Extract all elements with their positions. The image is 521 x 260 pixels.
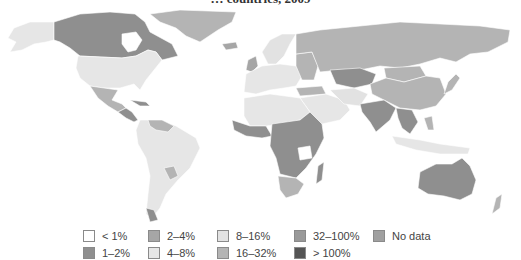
region-caribbean (130, 100, 150, 106)
legend-label: 1–2% (102, 247, 130, 259)
region-southern-africa (278, 176, 304, 198)
region-new-zealand (492, 194, 502, 214)
region-mexico (90, 86, 126, 112)
legend-swatch (294, 230, 306, 242)
legend-label: > 100% (313, 247, 351, 259)
legend-swatch (217, 247, 229, 259)
legend-item-lt-1: < 1% (83, 229, 127, 243)
region-greenland (150, 10, 236, 42)
legend-swatch (217, 230, 229, 242)
legend-label: 4–8% (167, 247, 195, 259)
legend-item-gt-100: > 100% (294, 246, 351, 260)
legend-item-no-data: No data (373, 229, 431, 243)
legend-label: No data (392, 230, 431, 242)
legend-swatch (83, 230, 95, 242)
legend-swatch (373, 230, 385, 242)
legend-item-4-8: 4–8% (148, 246, 195, 260)
legend-label: 2–4% (167, 230, 195, 242)
region-indonesia (392, 136, 470, 154)
legend-label: 8–16% (236, 230, 270, 242)
world-map (0, 8, 521, 223)
legend-swatch (294, 247, 306, 259)
legend-item-2-4: 2–4% (148, 229, 195, 243)
legend-item-32-100: 32–100% (294, 229, 360, 243)
region-russia (296, 22, 510, 72)
legend-label: < 1% (102, 230, 127, 242)
legend-item-1-2: 1–2% (83, 246, 130, 260)
region-australia (418, 158, 476, 200)
legend-label: 32–100% (313, 230, 360, 242)
map-title: … countries, 2009 (0, 0, 521, 7)
region-scandinavia (262, 34, 296, 64)
region-kazakhstan (330, 68, 376, 88)
region-alaska (8, 22, 54, 52)
legend-item-16-32: 16–32% (217, 246, 276, 260)
map-legend: < 1% 1–2% 2–4% 4–8% 8–16% 16–32% 32–100%… (83, 229, 503, 259)
legend-item-8-16: 8–16% (217, 229, 270, 243)
region-japan (444, 74, 460, 94)
legend-swatch (148, 247, 160, 259)
region-tanzania (298, 146, 312, 160)
legend-label: 16–32% (236, 247, 276, 259)
region-iceland (222, 42, 238, 50)
region-madagascar (316, 162, 324, 184)
region-india (360, 100, 396, 132)
legend-swatch (148, 230, 160, 242)
region-philippines (424, 116, 434, 130)
legend-swatch (83, 247, 95, 259)
region-se-asia (396, 108, 418, 134)
